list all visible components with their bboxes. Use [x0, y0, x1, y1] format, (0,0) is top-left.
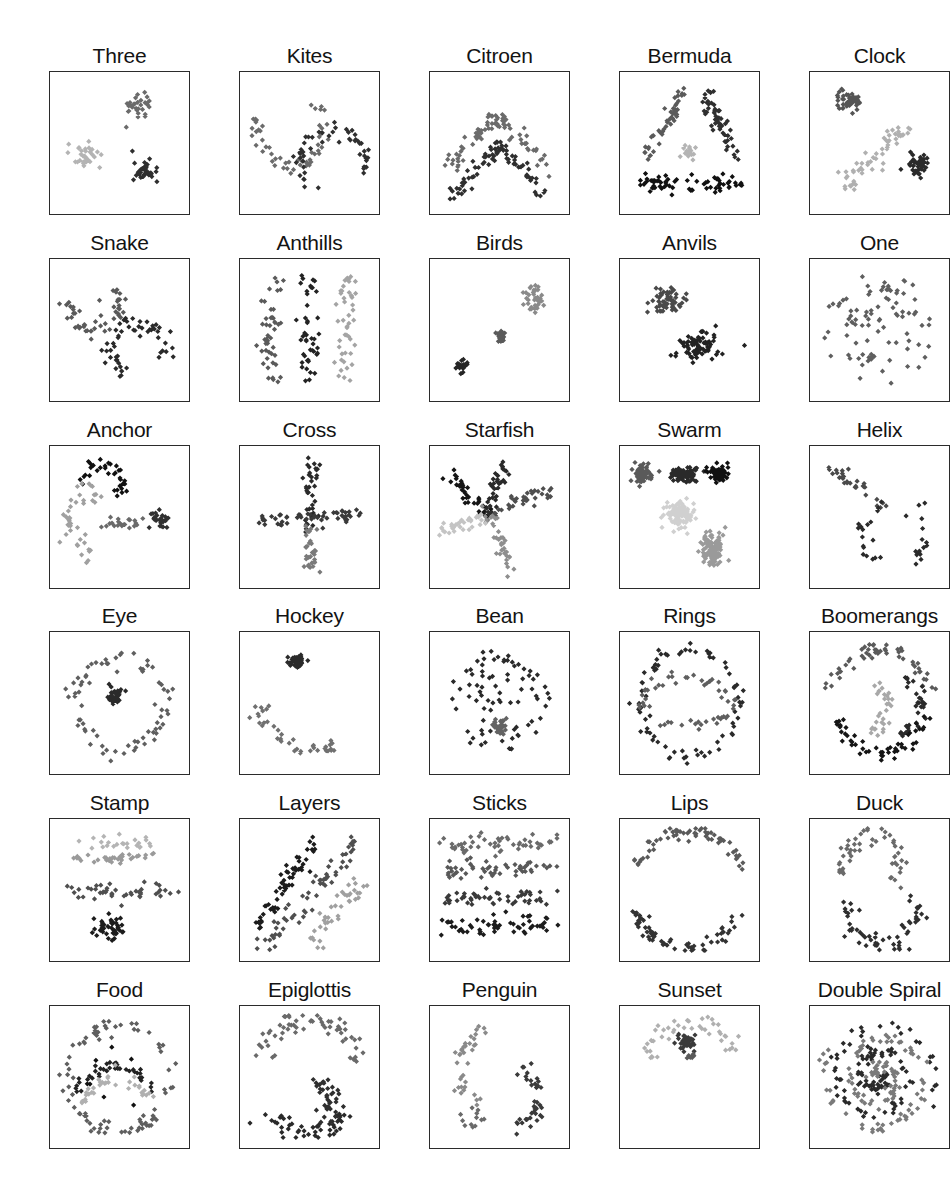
cluster-group	[254, 275, 286, 384]
cluster-group	[254, 1013, 366, 1064]
plot-area	[49, 258, 190, 402]
cluster-group	[678, 143, 699, 163]
cluster-group	[642, 86, 687, 162]
dataset-panel: Snake	[49, 258, 190, 402]
cluster-group	[480, 504, 517, 580]
cluster-group	[898, 150, 930, 181]
cluster-group	[514, 1061, 544, 1137]
panel-title: Duck	[809, 791, 950, 815]
plot-area	[809, 71, 950, 215]
panel-title: Sticks	[429, 791, 570, 815]
dataset-panel: Helix	[809, 445, 950, 589]
cluster-group	[826, 465, 888, 510]
plot-area	[429, 631, 570, 775]
panel-title: Eye	[49, 604, 190, 628]
scatter-points	[240, 819, 378, 960]
panel-title: Food	[49, 978, 190, 1002]
plot-area	[429, 818, 570, 962]
plot-area	[429, 445, 570, 589]
dataset-panel: Citroen	[429, 71, 570, 215]
panel-title: Penguin	[429, 978, 570, 1002]
panel-title: Lips	[619, 791, 760, 815]
cluster-group	[65, 139, 104, 170]
panel-title: Snake	[49, 231, 190, 255]
cluster-group	[638, 171, 745, 198]
plot-area	[239, 71, 380, 215]
cluster-group	[71, 851, 156, 866]
cluster-group	[302, 524, 323, 575]
panel-title: Cross	[239, 418, 380, 442]
scatter-points	[430, 259, 568, 400]
cluster-group	[869, 680, 895, 738]
plot-area	[429, 258, 570, 402]
panel-title: Epiglottis	[239, 978, 380, 1002]
panel-title: Swarm	[619, 418, 760, 442]
panel-title: Sunset	[619, 978, 760, 1002]
plot-area	[619, 445, 760, 589]
cluster-group	[437, 830, 560, 859]
scatter-points	[430, 819, 568, 960]
panel-title: Stamp	[49, 791, 190, 815]
dataset-panel: Lips	[619, 818, 760, 962]
scatter-points	[240, 1006, 378, 1147]
panel-title: Starfish	[429, 418, 570, 442]
dataset-panel: Sunset	[619, 1005, 760, 1149]
dataset-panel: Starfish	[429, 445, 570, 589]
scatter-points	[810, 819, 948, 960]
panel-title: Three	[49, 44, 190, 68]
scatter-points	[430, 446, 568, 587]
cluster-group	[632, 826, 746, 872]
scatter-points	[810, 1006, 948, 1147]
cluster-group	[443, 112, 552, 179]
scatter-points	[50, 819, 188, 960]
cluster-group	[294, 273, 322, 383]
cluster-group	[822, 274, 932, 386]
panel-title: Layers	[239, 791, 380, 815]
cluster-group	[90, 911, 126, 943]
scatter-points	[430, 1006, 568, 1147]
cluster-group	[147, 507, 171, 530]
cluster-group	[445, 855, 559, 881]
scatter-points	[240, 259, 378, 400]
dataset-panel: Food	[49, 1005, 190, 1149]
cluster-group	[659, 496, 699, 537]
panel-title: Boomerangs	[809, 604, 950, 628]
panel-title: Citroen	[429, 44, 570, 68]
dataset-panel: Boomerangs	[809, 631, 950, 775]
plot-area	[619, 71, 760, 215]
plot-area	[239, 631, 380, 775]
scatter-points	[620, 446, 758, 587]
cluster-group	[856, 499, 930, 566]
panel-title: Double Spiral	[809, 978, 950, 1002]
cluster-group	[76, 832, 153, 851]
dataset-panel: Hockey	[239, 631, 380, 775]
cluster-group	[332, 274, 358, 383]
scatter-points	[810, 72, 948, 213]
dataset-panel: Sticks	[429, 818, 570, 962]
cluster-group	[99, 316, 176, 379]
dataset-panel: Anchor	[49, 445, 190, 589]
plot-area	[239, 258, 380, 402]
plot-area	[619, 818, 760, 962]
cluster-group	[65, 879, 181, 908]
cluster-group	[628, 460, 661, 489]
plot-area	[49, 1005, 190, 1149]
cluster-group	[452, 1024, 488, 1108]
dataset-panel: Kites	[239, 71, 380, 215]
dataset-panel: Double Spiral	[809, 1005, 950, 1149]
cluster-group	[291, 120, 371, 191]
cluster-group	[105, 682, 128, 707]
plot-area	[619, 631, 760, 775]
plot-area	[809, 818, 950, 962]
cluster-group	[57, 287, 128, 342]
cluster-group	[249, 103, 330, 176]
scatter-points	[620, 1006, 758, 1147]
cluster-group	[700, 88, 741, 162]
dataset-panel: Duck	[809, 818, 950, 962]
scatter-points	[50, 446, 188, 587]
panel-title: Clock	[809, 44, 950, 68]
panel-title: Anthills	[239, 231, 380, 255]
plot-area	[809, 631, 950, 775]
dataset-panel: Rings	[619, 631, 760, 775]
cluster-group	[493, 329, 507, 344]
